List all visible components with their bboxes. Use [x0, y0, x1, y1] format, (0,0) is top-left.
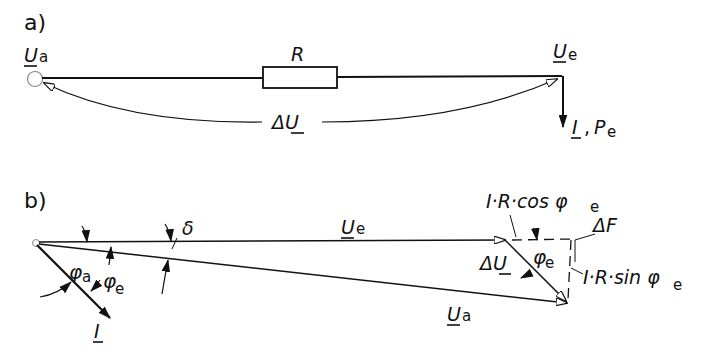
panel-a-label: a) — [24, 10, 46, 35]
phi-a-sub: a — [82, 268, 91, 286]
ue-vector — [39, 240, 505, 242]
phi-e-right-marker-top — [533, 228, 537, 240]
current-label: I — [93, 320, 103, 342]
panel-a: a) U a R U e ΔU I , — [24, 10, 616, 141]
panel-b: b) δ φ a φ e I — [24, 188, 682, 342]
phi-a-symbol: φ — [69, 260, 82, 284]
delta-marker-top — [165, 224, 171, 241]
ue-sub: e — [568, 46, 577, 64]
current-symbol: I — [572, 116, 578, 138]
phi-e-left-label: φ e — [103, 269, 124, 298]
ue-symbol: U — [341, 216, 355, 238]
ua-sub: a — [462, 307, 471, 325]
source-voltage-label: U a — [24, 44, 48, 66]
phi-a-label: φ a — [69, 260, 91, 286]
ir-cos-leader — [510, 215, 516, 237]
ue-vector-label: U e — [341, 216, 365, 238]
phi-a-marker — [40, 282, 71, 297]
ir-cos-dashed — [512, 239, 573, 240]
ir-cos-label: I·R·cos φ e — [486, 190, 599, 216]
current-power-label: I , P e — [571, 116, 616, 141]
phi-e-right-marker-bottom — [521, 273, 528, 278]
ir-sin-text: I·R·sin φ — [583, 266, 660, 288]
current-symbol: I — [94, 320, 100, 342]
ir-sin-label: I·R·sin φ e — [583, 266, 682, 294]
delta-u-label: ΔU — [270, 111, 304, 133]
source-node — [28, 72, 43, 87]
delta-tick — [172, 238, 177, 249]
power-symbol: P — [594, 116, 606, 138]
delta-f-leader — [575, 234, 595, 240]
ua-symbol: U — [24, 44, 38, 66]
delta-u-arrow-left — [44, 83, 262, 122]
delta-f-label: ΔF — [591, 214, 618, 236]
ir-cos-text: I·R·cos φ — [486, 190, 568, 212]
ir-sin-sub: e — [673, 276, 682, 294]
line-right — [337, 76, 562, 77]
ir-sin-leader — [571, 268, 583, 274]
resistor — [263, 67, 337, 88]
phi-e-current-marker — [91, 280, 100, 291]
power-sub: e — [607, 123, 616, 141]
resistor-label: R — [291, 43, 304, 65]
delta-u-text: ΔU — [270, 111, 299, 133]
ua-vector-label: U a — [447, 303, 471, 325]
phi-e-sub: e — [545, 254, 554, 272]
delta-u-label: ΔU — [478, 252, 511, 274]
phi-e-sub: e — [115, 280, 124, 298]
ir-sin-dashed — [568, 240, 571, 300]
end-voltage-label: U e — [553, 40, 577, 64]
separator: , — [584, 116, 590, 138]
ue-sub: e — [356, 220, 365, 238]
delta-label: δ — [182, 217, 194, 239]
ue-symbol: U — [553, 40, 567, 62]
ua-sub: a — [39, 48, 48, 66]
delta-u-arrow-right — [322, 79, 557, 122]
delta-u-text: ΔU — [478, 252, 507, 274]
phi-e-right-label: φ e — [533, 245, 554, 272]
ua-symbol: U — [447, 303, 461, 325]
phi-e-marker — [109, 247, 111, 265]
phi-marker-top — [82, 226, 87, 242]
phasor-diagram: a) U a R U e ΔU I , — [0, 0, 707, 355]
panel-b-label: b) — [24, 188, 47, 213]
delta-marker-bottom — [162, 260, 168, 294]
